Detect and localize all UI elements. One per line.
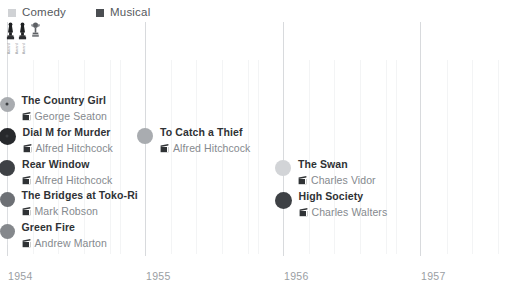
award-label: Award bbox=[15, 43, 20, 54]
event-dot[interactable] bbox=[275, 160, 291, 176]
legend-item-musical[interactable]: Musical bbox=[96, 7, 150, 19]
event-text: High SocietyCharles Walters bbox=[299, 190, 388, 221]
clapperboard-icon bbox=[160, 143, 169, 153]
event-title: Green Fire bbox=[22, 221, 108, 233]
event-node[interactable]: High SocietyCharles Walters bbox=[283, 190, 387, 221]
event-director-row: Charles Walters bbox=[299, 203, 388, 221]
clapperboard-icon bbox=[22, 238, 31, 248]
event-director-row: Mark Robson bbox=[22, 202, 138, 220]
clapperboard-icon bbox=[23, 139, 32, 157]
oscar-trophy-icon bbox=[30, 22, 41, 46]
clapperboard-icon bbox=[22, 234, 31, 252]
event-director: Charles Walters bbox=[312, 206, 388, 218]
legend-swatch-comedy bbox=[8, 9, 16, 17]
gridline-minor bbox=[447, 60, 448, 254]
gridline-minor bbox=[110, 60, 111, 254]
event-title: The Country Girl bbox=[22, 94, 108, 106]
event-director-row: Alfred Hitchcock bbox=[22, 171, 112, 189]
event-dot[interactable] bbox=[0, 160, 15, 176]
award-labels-group: AwardAwardAward bbox=[7, 43, 27, 54]
event-dot[interactable] bbox=[0, 97, 15, 112]
event-text: The Country GirlGeorge Seaton bbox=[22, 94, 108, 125]
event-director: Alfred Hitchcock bbox=[173, 142, 250, 154]
award-label: Award bbox=[22, 43, 27, 54]
gridline-minor bbox=[334, 60, 335, 254]
event-text: Rear WindowAlfred Hitchcock bbox=[22, 158, 112, 189]
gridline-minor bbox=[360, 60, 361, 254]
event-node[interactable]: The Country GirlGeorge Seaton bbox=[7, 94, 107, 125]
event-node[interactable]: Dial M for MurderAlfred Hitchcock bbox=[7, 126, 113, 157]
gridline-minor bbox=[472, 60, 473, 254]
event-director: George Seaton bbox=[35, 110, 108, 122]
event-dot[interactable] bbox=[0, 192, 15, 207]
event-title: The Bridges at Toko-Ri bbox=[22, 189, 138, 201]
legend-swatch-musical bbox=[96, 9, 104, 17]
event-title: The Swan bbox=[298, 158, 376, 170]
event-title: Rear Window bbox=[22, 158, 112, 170]
x-axis-tick-1956: 1956 bbox=[284, 270, 309, 282]
event-dot[interactable] bbox=[0, 224, 15, 239]
gridline-minor bbox=[386, 60, 387, 254]
event-dot-core bbox=[6, 103, 9, 106]
event-director: Charles Vidor bbox=[311, 174, 376, 186]
x-axis-tick-1957: 1957 bbox=[421, 270, 446, 282]
event-title: High Society bbox=[299, 190, 388, 202]
gridline-minor bbox=[498, 60, 499, 254]
gridline-minor bbox=[120, 60, 121, 254]
award-label: Award bbox=[7, 43, 12, 54]
event-director-row: George Seaton bbox=[22, 107, 108, 125]
event-director-row: Alfred Hitchcock bbox=[160, 139, 250, 157]
event-text: Dial M for MurderAlfred Hitchcock bbox=[23, 126, 113, 157]
clapperboard-icon bbox=[22, 202, 31, 220]
gridline-minor bbox=[196, 60, 197, 254]
legend-item-comedy[interactable]: Comedy bbox=[8, 7, 66, 19]
event-director: Alfred Hitchcock bbox=[35, 174, 112, 186]
gridline-1957 bbox=[420, 22, 421, 256]
event-node[interactable]: Green FireAndrew Marton bbox=[7, 221, 107, 252]
event-text: To Catch a ThiefAlfred Hitchcock bbox=[160, 126, 250, 157]
clapperboard-icon bbox=[22, 107, 31, 125]
event-title: To Catch a Thief bbox=[160, 126, 250, 138]
gridline-minor bbox=[258, 60, 259, 254]
event-dot[interactable] bbox=[137, 128, 153, 144]
event-dot[interactable] bbox=[275, 192, 292, 209]
gridline-minor bbox=[396, 60, 397, 254]
x-axis-tick-1955: 1955 bbox=[146, 270, 171, 282]
clapperboard-icon bbox=[298, 175, 307, 185]
clapperboard-icon bbox=[22, 171, 31, 189]
clapperboard-icon bbox=[22, 175, 31, 185]
clapperboard-icon bbox=[299, 203, 308, 221]
event-director: Alfred Hitchcock bbox=[36, 142, 113, 154]
legend-label: Musical bbox=[110, 7, 150, 19]
event-text: The SwanCharles Vidor bbox=[298, 158, 376, 189]
event-director-row: Alfred Hitchcock bbox=[23, 139, 113, 157]
gridline-minor bbox=[248, 60, 249, 254]
clapperboard-icon bbox=[160, 139, 169, 157]
gridline-minor bbox=[222, 60, 223, 254]
event-director-row: Andrew Marton bbox=[22, 234, 108, 252]
event-dot-core bbox=[6, 135, 9, 138]
event-title: Dial M for Murder bbox=[23, 126, 113, 138]
event-text: Green FireAndrew Marton bbox=[22, 221, 108, 252]
event-node[interactable]: The Bridges at Toko-RiMark Robson bbox=[7, 189, 138, 220]
clapperboard-icon bbox=[298, 171, 307, 189]
event-node[interactable]: To Catch a ThiefAlfred Hitchcock bbox=[145, 126, 250, 157]
event-director: Andrew Marton bbox=[35, 237, 108, 249]
clapperboard-icon bbox=[22, 206, 31, 216]
legend-label: Comedy bbox=[22, 7, 66, 19]
gridline-minor bbox=[309, 60, 310, 254]
event-node[interactable]: Rear WindowAlfred Hitchcock bbox=[7, 158, 112, 189]
chart-legend: ComedyMusical bbox=[8, 7, 150, 19]
event-director: Mark Robson bbox=[35, 205, 99, 217]
clapperboard-icon bbox=[23, 143, 32, 153]
event-text: The Bridges at Toko-RiMark Robson bbox=[22, 189, 138, 220]
event-node[interactable]: The SwanCharles Vidor bbox=[283, 158, 376, 189]
gridline-minor bbox=[171, 60, 172, 254]
clapperboard-icon bbox=[299, 207, 308, 217]
event-director-row: Charles Vidor bbox=[298, 171, 376, 189]
clapperboard-icon bbox=[22, 111, 31, 121]
x-axis-tick-1954: 1954 bbox=[8, 270, 33, 282]
event-dot[interactable] bbox=[0, 128, 16, 145]
timeline-chart: ComedyMusical 1954195519561957 AwardAwar… bbox=[0, 0, 514, 290]
